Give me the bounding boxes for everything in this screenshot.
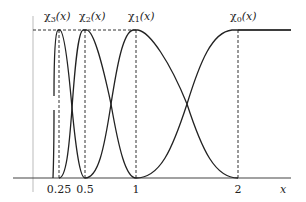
label-chi0: χ0(x) bbox=[230, 10, 257, 24]
x-tick-label-2: 2 bbox=[235, 183, 242, 196]
curve-chi2 bbox=[59, 30, 136, 178]
x-tick-label-0.5: 0.5 bbox=[76, 183, 94, 196]
label-chi1: χ1(x) bbox=[128, 10, 155, 24]
x-tick-label-0.25: 0.25 bbox=[47, 183, 72, 196]
dyadic-partition-diagram: χ3(x) χ2(x) χ1(x) χ0(x) 0.25 0.5 1 2 x bbox=[0, 0, 306, 202]
x-axis-label: x bbox=[280, 183, 287, 196]
curve-chi0 bbox=[136, 30, 291, 178]
x-tick-label-1: 1 bbox=[133, 183, 140, 196]
label-chi3: χ3(x) bbox=[44, 10, 71, 24]
curve-chi3 bbox=[53, 30, 85, 178]
label-chi2: χ2(x) bbox=[79, 10, 106, 24]
curve-chi1 bbox=[85, 30, 238, 178]
